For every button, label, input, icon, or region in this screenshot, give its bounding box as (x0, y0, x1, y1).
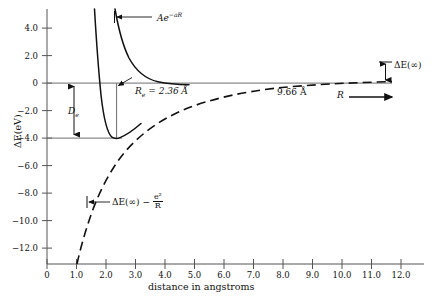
crossing-distance-label: 9.66 Å (277, 87, 306, 97)
x-tick-label: 7.0 (239, 270, 269, 280)
axis-lines (47, 9, 424, 264)
x-tick-label: 5.0 (180, 270, 210, 280)
x-tick-label: 4.0 (150, 270, 180, 280)
y-tick-label: −8.0 (4, 188, 38, 198)
y-tick-label: −6.0 (4, 161, 38, 171)
well-depth-label: De (68, 106, 79, 118)
coulomb-label: ΔE(∞) − e² R (112, 194, 163, 212)
coulomb-label-fraction: e² R (153, 193, 163, 211)
y-tick-label: −12.0 (0, 243, 38, 253)
coulomb-curve (77, 82, 392, 264)
morse-well-curve (95, 9, 142, 138)
coulomb-fraction-denominator: R (153, 202, 163, 210)
re-symbol: R (135, 86, 142, 96)
y-tick-label: 0 (8, 78, 38, 88)
repulsion-label-base: Ae (157, 13, 169, 23)
x-tick-label: 12.0 (386, 270, 416, 280)
potential-energy-chart (0, 0, 432, 296)
y-axis-caption: ΔE(eV) (12, 114, 23, 148)
repulsion-label: Ae−aR (157, 11, 182, 23)
x-tick-label: 10.0 (327, 270, 357, 280)
x-tick-label: 8.0 (268, 270, 298, 280)
x-tick-label: 9.0 (298, 270, 328, 280)
y-tick-label: 4.0 (8, 23, 38, 33)
equilibrium-leader-arrow (119, 78, 133, 86)
repulsion-label-exponent: −aR (169, 11, 182, 18)
distance-arrow-label: R (337, 90, 344, 100)
x-tick-label: 0 (32, 270, 62, 280)
dissociation-energy-label: ΔE(∞) (394, 60, 422, 70)
re-value: = 2.36 Å (145, 86, 188, 96)
well-depth-subscript: e (75, 111, 79, 118)
equilibrium-distance-label: Re = 2.36 Å (135, 86, 188, 98)
dissociation-energy-bracket (379, 62, 392, 80)
coulomb-label-lead: ΔE(∞) − (112, 197, 150, 207)
y-tick-label: 2.0 (8, 51, 38, 61)
x-tick-label: 6.0 (209, 270, 239, 280)
x-axis-caption: distance in angstroms (148, 281, 254, 292)
x-tick-label: 11.0 (357, 270, 387, 280)
y-tick-label: −10.0 (0, 216, 38, 226)
x-tick-label: 2.0 (91, 270, 121, 280)
x-tick-label: 1.0 (62, 270, 92, 280)
x-tick-label: 3.0 (121, 270, 151, 280)
